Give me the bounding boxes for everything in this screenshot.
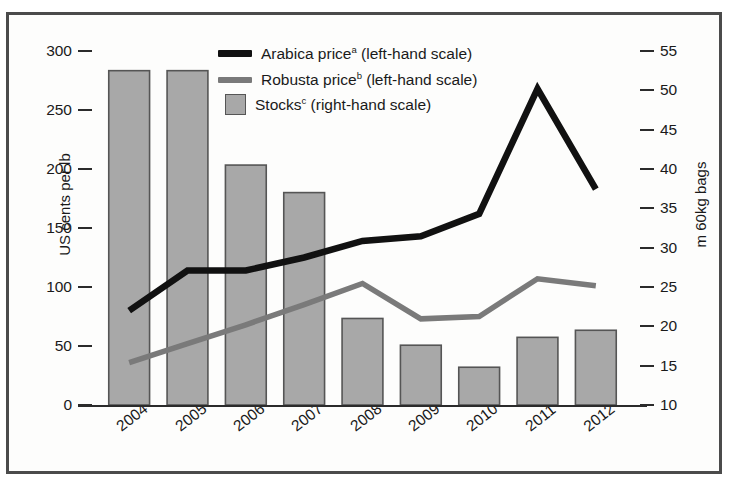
bar-2008 — [342, 318, 383, 405]
bar-2005 — [167, 71, 208, 405]
bar-2006 — [225, 165, 266, 405]
legend-line-swatch-icon — [218, 77, 252, 83]
legend-label: Arabica pricea (left-hand scale) — [261, 44, 472, 63]
bar-2009 — [400, 345, 441, 405]
bar-2011 — [517, 337, 558, 405]
bar-2012 — [575, 330, 616, 405]
legend-item-stocks: Stocksc (right-hand scale) — [218, 94, 431, 115]
legend-label: Stocksc (right-hand scale) — [255, 95, 431, 114]
bar-2004 — [109, 71, 150, 405]
legend-superscript: b — [357, 70, 362, 81]
legend-label: Robusta priceb (left-hand scale) — [261, 70, 477, 89]
chart-canvas: US cents per lb m 60kg bags 050100150200… — [0, 0, 730, 482]
legend-item-arabica-price: Arabica pricea (left-hand scale) — [218, 44, 472, 63]
legend-superscript: a — [351, 44, 356, 55]
legend-item-robusta-price: Robusta priceb (left-hand scale) — [218, 70, 477, 89]
legend-line-swatch-icon — [218, 50, 252, 57]
legend-box-swatch-icon — [225, 94, 246, 115]
bar-2010 — [459, 367, 500, 405]
legend-superscript: c — [302, 95, 307, 106]
